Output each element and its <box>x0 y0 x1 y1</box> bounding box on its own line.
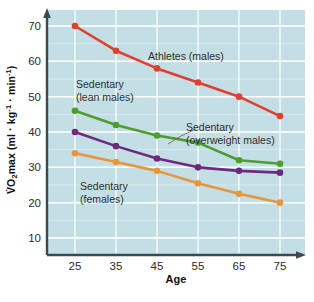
data-point <box>72 129 79 136</box>
chart-figure: V̇O2max (ml · kg-1 · min-1) 102030405060… <box>0 0 314 302</box>
x-tick-label: 45 <box>151 260 164 272</box>
data-point <box>277 113 284 120</box>
plot-svg: 10203040506070 253545556575 Athletes (ma… <box>0 0 314 302</box>
y-tick-label: 10 <box>28 232 41 244</box>
x-tick-label: 25 <box>69 260 82 272</box>
data-point <box>113 122 120 129</box>
annotation-sedentary-females-line2: (females) <box>80 193 124 205</box>
data-point <box>195 164 202 171</box>
y-tick-label: 20 <box>28 197 41 209</box>
annotation-sedentary-overweight-males-line1: Sedentary <box>186 121 235 133</box>
annotation-athletes-males: Athletes (males) <box>148 50 224 62</box>
x-tick-label: 75 <box>274 260 287 272</box>
y-tick-label: 60 <box>28 55 41 67</box>
y-axis-ticks: 10203040506070 <box>28 20 41 244</box>
data-point <box>72 150 79 157</box>
x-tick-label: 65 <box>233 260 246 272</box>
x-tick-label: 55 <box>192 260 205 272</box>
data-point <box>72 108 79 115</box>
data-point <box>236 157 243 164</box>
data-point <box>277 161 284 168</box>
data-point <box>236 191 243 198</box>
data-point <box>113 47 120 54</box>
data-point <box>154 155 161 162</box>
data-point <box>154 65 161 72</box>
y-tick-label: 70 <box>28 20 41 32</box>
data-point <box>277 199 284 206</box>
annotation-sedentary-lean-males-line2: (lean males) <box>76 91 134 103</box>
data-point <box>72 23 79 30</box>
data-point <box>113 143 120 150</box>
annotation-sedentary-females-line1: Sedentary <box>80 180 129 192</box>
y-tick-label: 50 <box>28 91 41 103</box>
annotation-sedentary-lean-males-line1: Sedentary <box>76 78 125 90</box>
x-tick-label: 35 <box>110 260 123 272</box>
data-point <box>195 79 202 86</box>
data-point <box>195 180 202 187</box>
y-tick-label: 30 <box>28 161 41 173</box>
data-point <box>236 93 243 100</box>
data-point <box>277 169 284 176</box>
data-point <box>113 159 120 166</box>
data-point <box>154 132 161 139</box>
data-point <box>154 168 161 175</box>
x-axis-title: Age <box>166 273 187 285</box>
y-tick-label: 40 <box>28 126 41 138</box>
annotation-sedentary-overweight-males-line2: (overweight males) <box>186 134 275 146</box>
x-axis-ticks: 253545556575 <box>69 260 287 272</box>
data-point <box>236 168 243 175</box>
